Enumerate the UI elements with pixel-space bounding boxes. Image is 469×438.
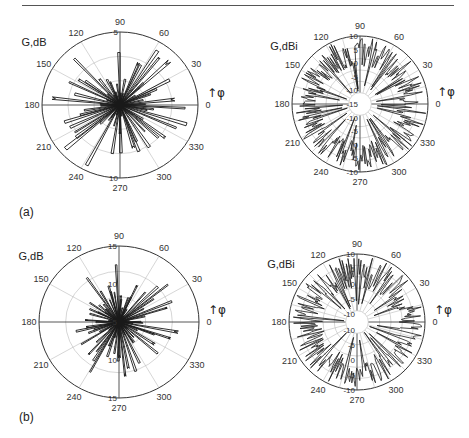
panel-label-b: (b) <box>19 410 34 424</box>
radial-tick-label: 10 <box>109 174 118 183</box>
angle-tick-label: 150 <box>34 274 49 284</box>
radial-tick-label: 5 <box>351 265 356 274</box>
angle-tick-label: 30 <box>192 274 202 284</box>
angle-tick-label: 150 <box>36 59 51 69</box>
angle-tick-label: 60 <box>159 243 169 253</box>
radial-tick-label: -5 <box>351 154 359 163</box>
angle-tick-label: 270 <box>111 403 126 413</box>
radial-tick-label: 15 <box>108 394 117 403</box>
angle-tick-label: 270 <box>349 395 364 405</box>
radial-tick-label: 10 <box>349 32 358 41</box>
radial-tick-label: -10 <box>343 326 355 335</box>
angle-tick-label: 210 <box>282 356 297 366</box>
angle-tick-label: 300 <box>391 167 406 177</box>
angle-tick-label: 30 <box>191 59 201 69</box>
pattern-trace <box>52 50 187 166</box>
angle-tick-label: 90 <box>114 231 124 241</box>
radial-tick-label: 0 <box>351 356 356 365</box>
angle-tick-label: 180 <box>24 100 39 110</box>
pattern-trace <box>76 265 178 377</box>
angle-tick-label: 180 <box>271 317 286 327</box>
radial-tick-label: -10 <box>343 386 355 395</box>
gain-axis-label: G,dBi <box>270 40 298 52</box>
angle-tick-label: 300 <box>388 385 403 395</box>
angle-tick-label: 240 <box>313 167 328 177</box>
angle-tick-label: 150 <box>282 278 297 288</box>
polar-plot-a-left: 0306090120150180210240270300330510G,dB↑φ <box>21 17 225 193</box>
radial-tick-label: -15 <box>346 100 358 109</box>
radial-tick-label: -10 <box>343 310 355 319</box>
panel-label-a: (a) <box>19 205 34 219</box>
radial-tick-label: 0 <box>354 141 359 150</box>
angle-tick-label: 30 <box>419 278 429 288</box>
radial-tick-label: 5 <box>354 46 359 55</box>
angle-tick-label: 0 <box>432 317 437 327</box>
angle-tick-label: 300 <box>156 392 171 402</box>
angle-tick-label: 0 <box>205 100 210 110</box>
radial-tick-label: -10 <box>346 86 358 95</box>
angle-tick-label: 90 <box>115 17 125 27</box>
radial-tick-label: 0 <box>354 59 359 68</box>
angle-tick-label: 120 <box>310 250 325 260</box>
angle-tick-label: 30 <box>422 60 432 70</box>
angle-tick-label: 330 <box>420 138 435 148</box>
angle-tick-label: 210 <box>34 360 49 370</box>
phi-axis-label: ↑φ <box>208 303 226 317</box>
angle-tick-label: 60 <box>159 28 169 38</box>
gain-axis-label: G,dBi <box>267 258 295 270</box>
phi-axis-label: ↑φ <box>437 85 455 99</box>
radial-tick-label: 5 <box>114 28 119 37</box>
angle-tick-label: 270 <box>352 177 367 187</box>
radial-tick-label: -5 <box>348 295 356 304</box>
radial-tick-label: -5 <box>348 371 356 380</box>
gain-axis-label: G,dB <box>21 36 46 48</box>
angle-tick-label: 90 <box>352 239 362 249</box>
angle-tick-label: 300 <box>156 172 171 182</box>
radial-tick-label: -10 <box>346 114 358 123</box>
phi-axis-label: ↑φ <box>434 303 452 317</box>
radial-tick-label: 10 <box>346 250 355 259</box>
radial-tick-label: 10 <box>108 356 117 365</box>
radial-tick-label: -5 <box>351 127 359 136</box>
angle-tick-label: 60 <box>391 250 401 260</box>
radial-tick-label: -5 <box>351 73 359 82</box>
angle-tick-label: 180 <box>21 317 36 327</box>
angle-tick-label: 120 <box>313 32 328 42</box>
angle-tick-label: 60 <box>394 32 404 42</box>
angle-tick-label: 270 <box>112 183 127 193</box>
angle-tick-label: 240 <box>68 172 83 182</box>
angle-tick-label: 210 <box>36 142 51 152</box>
radial-tick-label: -10 <box>346 168 358 177</box>
phi-axis-label: ↑φ <box>207 86 225 100</box>
angle-tick-label: 150 <box>285 60 300 70</box>
angle-tick-label: 0 <box>206 317 211 327</box>
angle-tick-label: 330 <box>189 142 204 152</box>
angle-tick-label: 180 <box>274 99 289 109</box>
radial-tick-label: -5 <box>348 341 356 350</box>
polar-plot-b-left: 0306090120150180210240270300330151051015… <box>18 231 226 413</box>
angle-tick-label: 90 <box>355 21 365 31</box>
angle-tick-label: 330 <box>189 360 204 370</box>
polar-plot-a-right: 03060901201501802102402703003301050-5-10… <box>270 21 455 187</box>
angle-tick-label: 120 <box>68 28 83 38</box>
radial-tick-label: 0 <box>351 280 356 289</box>
angle-tick-label: 240 <box>310 385 325 395</box>
polar-plot-b-right: 03060901201501802102402703003301050-5-10… <box>267 239 452 405</box>
radial-tick-label: 15 <box>108 242 117 251</box>
angle-tick-label: 210 <box>285 138 300 148</box>
angle-tick-label: 0 <box>435 99 440 109</box>
radial-tick-label: 5 <box>113 318 118 327</box>
gain-axis-label: G,dB <box>18 250 43 262</box>
angle-tick-label: 330 <box>417 356 432 366</box>
angle-tick-label: 240 <box>66 392 81 402</box>
radial-tick-label: 10 <box>108 280 117 289</box>
polar-plots-canvas: 0306090120150180210240270300330510G,dB↑φ… <box>0 0 469 438</box>
angle-tick-label: 120 <box>66 243 81 253</box>
